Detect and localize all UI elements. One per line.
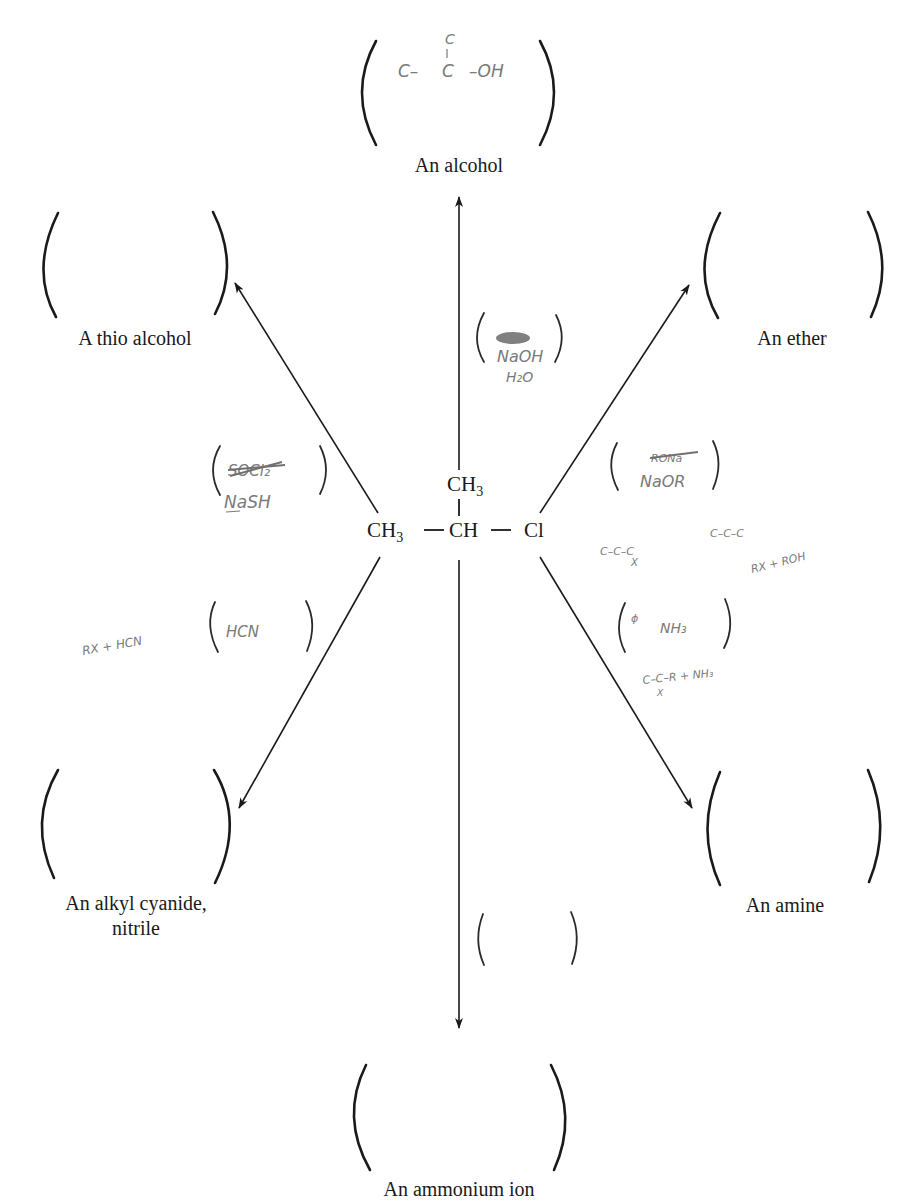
ether-reagent-handwriting[interactable]: RONa NaOR [640, 452, 698, 491]
crossed-out-scribble [496, 332, 530, 344]
reaction-diagram: CH3 CH3 CH Cl C C– C –OH An alcohol A th… [0, 0, 916, 1202]
thio-answer-area[interactable] [70, 215, 205, 310]
ether-answer-area[interactable] [730, 215, 860, 310]
reagent-paren-right [571, 912, 577, 964]
chain-ch: CH [449, 518, 478, 542]
answer-paren-left [354, 1065, 370, 1170]
reagent-paren-left [478, 914, 484, 965]
cyanide-reagent-handwriting[interactable]: HCN [226, 623, 259, 641]
answer-paren-right [213, 212, 227, 314]
svg-text:–OH: –OH [469, 61, 504, 81]
amine-reagent-handwriting[interactable]: ɸ NH₃ [631, 612, 687, 636]
ether-note-1-sub: X [630, 557, 639, 568]
reagent-paren-left [477, 313, 484, 362]
svg-text:H₂O: H₂O [506, 369, 533, 385]
product-amine: An amine [708, 770, 881, 916]
svg-text:HCN: HCN [226, 623, 259, 641]
answer-paren-right [868, 212, 882, 317]
answer-paren-left [362, 41, 376, 145]
answer-paren-left [704, 213, 720, 318]
alcohol-reagent-handwriting[interactable]: NaOH H₂O [496, 332, 543, 385]
cyanide-note: RX + HCN [81, 634, 143, 658]
product-label-line2: nitrile [112, 917, 160, 939]
product-label: An ammonium ion [383, 1178, 534, 1200]
product-ether: An ether [704, 212, 882, 349]
product-label: An alcohol [415, 154, 504, 176]
answer-paren-left [42, 770, 58, 878]
reagent-paren-right [713, 441, 719, 489]
ammonium-reagent-area[interactable] [490, 915, 565, 963]
product-label: A thio alcohol [78, 327, 192, 349]
product-alkyl-cyanide: An alkyl cyanide, nitrile [42, 770, 230, 939]
reagent-paren-left [213, 446, 220, 495]
product-label-line1: An alkyl cyanide, [65, 892, 207, 915]
product-alcohol: C C– C –OH An alcohol [362, 31, 554, 176]
cyanide-answer-area[interactable] [70, 775, 205, 875]
product-label: An amine [746, 894, 824, 916]
answer-paren-right [868, 770, 880, 882]
answer-paren-right [551, 1065, 565, 1170]
reagent-paren-left [210, 602, 218, 652]
reagent-ether: RONa NaOR [611, 441, 718, 491]
amine-note-sub: X [656, 688, 664, 698]
center-molecule: CH3 CH3 CH Cl [367, 472, 544, 545]
answer-paren-right [214, 770, 230, 883]
amine-answer-area[interactable] [730, 775, 860, 875]
answer-paren-right [540, 41, 554, 145]
ammonium-answer-area[interactable] [380, 1070, 545, 1165]
svg-text:NaSH: NaSH [224, 492, 271, 512]
product-label: An ether [757, 327, 827, 349]
reagent-paren-left [619, 603, 625, 652]
ether-note-2b: RX + ROH [750, 550, 807, 576]
arrow-down-left-cyanide [239, 557, 380, 808]
ether-note-2: C–C–C [710, 527, 744, 540]
ether-note-1: C–C–C [600, 545, 634, 558]
reagent-amine: ɸ NH₃ C–C–R + NH₃ X [619, 599, 730, 698]
reagent-paren-right [320, 446, 326, 494]
answer-paren-left [708, 772, 721, 885]
product-ammonium-ion: An ammonium ion [354, 1065, 565, 1200]
branch-ch3: CH3 [447, 472, 483, 499]
svg-text:C: C [442, 61, 454, 81]
svg-text:NH₃: NH₃ [660, 620, 687, 636]
alcohol-handwritten-answer[interactable]: C C– C –OH [398, 31, 504, 81]
reagent-alcohol: NaOH H₂O [477, 313, 562, 385]
reagent-paren-left [611, 443, 618, 490]
reagent-ammonium-ion [478, 912, 577, 965]
ether-notes: C–C–C X C–C–C RX + ROH [600, 527, 807, 576]
chain-cl: Cl [524, 518, 544, 542]
svg-text:NaOH: NaOH [497, 347, 543, 366]
svg-text:C–: C– [398, 61, 418, 81]
amine-note: C–C–R + NH₃ [642, 667, 715, 687]
product-thio-alcohol: A thio alcohol [43, 212, 227, 349]
svg-text:NaOR: NaOR [640, 472, 685, 491]
svg-text:ɸ: ɸ [631, 612, 638, 625]
reagent-paren-right [724, 599, 730, 648]
svg-text:C: C [445, 31, 455, 47]
chain-ch3: CH3 [367, 518, 403, 545]
reagent-alkyl-cyanide: HCN RX + HCN [81, 601, 312, 658]
reagent-paren-right [555, 315, 562, 362]
reagent-paren-right [306, 601, 312, 651]
reagent-thio-alcohol: SOCl₂ NaSH [213, 446, 326, 512]
thio-reagent-handwriting[interactable]: SOCl₂ NaSH [224, 462, 285, 512]
answer-paren-left [43, 213, 58, 317]
